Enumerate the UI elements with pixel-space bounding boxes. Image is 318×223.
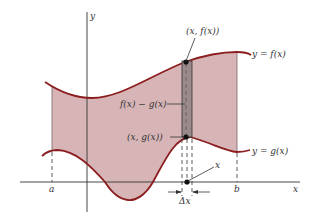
leader-f-point (186, 38, 195, 61)
delta-x-strip (182, 61, 192, 137)
point-g (183, 134, 188, 139)
arrowhead-icon (176, 190, 182, 194)
f-curve-label: y = f(x) (251, 49, 286, 59)
height-label: f(x) − g(x) (119, 99, 167, 109)
area-between-curves-diagram: y x a b y = f(x) y = g(x) (x, f(x)) (x, … (0, 0, 318, 223)
delta-x-label: Δx (178, 196, 191, 206)
a-label: a (49, 184, 54, 194)
f-point-label: (x, f(x)) (186, 26, 220, 36)
x-point-label: x (215, 160, 220, 170)
g-curve-label: y = g(x) (251, 146, 289, 156)
b-label: b (234, 184, 240, 194)
x-axis-label: x (293, 184, 298, 194)
y-axis-label: y (89, 11, 96, 21)
region-between-curves (52, 52, 237, 200)
g-point-label: (x, g(x)) (127, 132, 163, 142)
arrowhead-icon (192, 190, 198, 194)
